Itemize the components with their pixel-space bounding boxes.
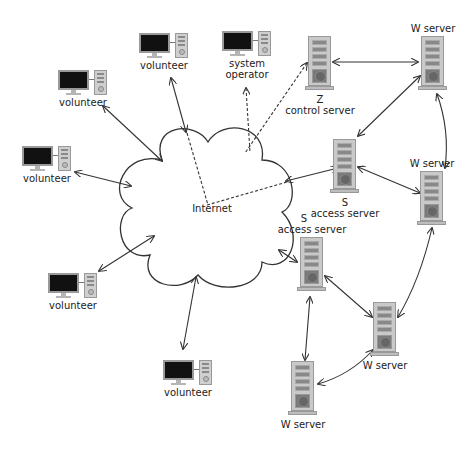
server-icon-w4	[288, 361, 317, 415]
server-bay	[377, 327, 392, 332]
monitor-base	[56, 296, 71, 298]
fan-icon	[98, 86, 104, 92]
server-label-s2: access server	[278, 224, 347, 235]
server-fan-icon	[295, 394, 310, 408]
server-case	[373, 302, 396, 352]
server-fan-icon	[425, 69, 440, 83]
volunteer-computer-icon-4	[48, 273, 97, 298]
drive-bay	[261, 38, 268, 40]
drive-bay	[178, 36, 185, 38]
edge-v5-cloud	[183, 277, 196, 349]
fan-icon	[88, 289, 94, 295]
server-bay	[425, 54, 440, 59]
drive-bay	[97, 73, 104, 75]
edge-w2-w3	[398, 228, 432, 317]
server-bay	[295, 365, 310, 370]
server-label-w1: W server	[411, 23, 456, 34]
drive-bay	[61, 157, 68, 159]
server-base	[370, 352, 399, 356]
server-bay	[312, 40, 327, 45]
server-base	[330, 189, 359, 193]
server-bay	[377, 320, 392, 325]
edge-s2-w4	[305, 297, 310, 360]
edge-w1-s1	[358, 76, 420, 136]
volunteer-computer-icon-1	[139, 33, 188, 58]
server-case	[421, 36, 444, 86]
server-bay	[337, 157, 352, 162]
system-operator-label-line1: system	[229, 58, 265, 69]
server-icon-s2	[297, 237, 326, 291]
volunteer-label-3: volunteer	[23, 173, 71, 184]
server-letter-s2: S	[301, 213, 307, 224]
server-bay	[337, 164, 352, 169]
system-operator-computer-icon	[222, 31, 271, 56]
server-bay	[304, 248, 319, 253]
pc-tower-icon	[175, 33, 188, 58]
drive-bay	[202, 371, 209, 373]
server-letter-z: Z	[317, 94, 324, 105]
fan-icon	[203, 376, 209, 382]
drive-bay	[261, 34, 268, 36]
server-bay	[295, 379, 310, 384]
monitor-base	[230, 54, 245, 56]
server-fan-icon	[312, 69, 327, 83]
server-bay	[377, 313, 392, 318]
server-icon-s1	[330, 139, 359, 193]
server-fan-icon	[377, 335, 392, 349]
server-case	[291, 361, 314, 411]
monitor-icon	[48, 273, 79, 293]
edge-v1-cloud	[171, 78, 186, 132]
drive-bay	[87, 280, 94, 282]
drive-bay	[61, 149, 68, 151]
monitor-base	[147, 56, 162, 58]
server-bay	[304, 255, 319, 260]
server-case	[420, 171, 443, 221]
monitor-base	[66, 93, 81, 95]
drive-bay	[87, 276, 94, 278]
server-bay	[425, 61, 440, 66]
server-icon-w2	[417, 171, 446, 225]
server-bay	[304, 241, 319, 246]
pc-tower-icon	[258, 31, 271, 56]
pc-tower-icon	[199, 360, 212, 385]
edge-s1-w2	[358, 167, 420, 193]
fan-icon	[62, 162, 68, 168]
fan-icon	[262, 47, 268, 53]
edge-v2-cloud	[103, 106, 162, 161]
server-base	[417, 221, 446, 225]
pc-tower-icon	[94, 70, 107, 95]
server-icon-w3	[370, 302, 399, 356]
server-label-s1: access server	[311, 208, 380, 219]
server-bay	[312, 54, 327, 59]
volunteer-computer-icon-3	[22, 146, 71, 171]
server-bay	[425, 47, 440, 52]
system-operator-label-line2: operator	[225, 69, 268, 80]
volunteer-computer-icon-2	[58, 70, 107, 95]
volunteer-label-1: volunteer	[140, 60, 188, 71]
drive-bay	[202, 367, 209, 369]
pc-tower-icon	[84, 273, 97, 298]
server-bay	[424, 196, 439, 201]
server-bay	[424, 175, 439, 180]
monitor-icon	[163, 360, 194, 380]
server-base	[288, 411, 317, 415]
drive-bay	[97, 81, 104, 83]
server-case	[333, 139, 356, 189]
drive-bay	[261, 42, 268, 44]
server-bay	[295, 372, 310, 377]
server-label-w2: W server	[410, 158, 455, 169]
drive-bay	[178, 40, 185, 42]
server-fan-icon	[304, 270, 319, 284]
server-fan-icon	[337, 172, 352, 186]
server-bay	[295, 386, 310, 391]
server-case	[308, 36, 331, 86]
server-icon-z	[305, 36, 334, 90]
monitor-icon	[22, 146, 53, 166]
server-label-z: control server	[285, 105, 355, 116]
server-base	[305, 86, 334, 90]
server-letter-s1: S	[342, 197, 348, 208]
server-base	[297, 287, 326, 291]
drive-bay	[61, 153, 68, 155]
internet-label: Internet	[192, 203, 232, 214]
volunteer-computer-icon-5	[163, 360, 212, 385]
